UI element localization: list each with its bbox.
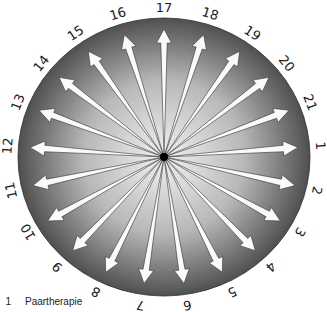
spoke-label-11: 11 bbox=[2, 181, 20, 200]
spoke-label-2: 2 bbox=[309, 185, 325, 196]
spoke-label-6: 6 bbox=[182, 297, 192, 312]
legend-item-number: 1 bbox=[5, 296, 11, 308]
spoke-label-16: 16 bbox=[108, 4, 128, 23]
spoke-label-7: 7 bbox=[135, 297, 145, 312]
spoke-label-12: 12 bbox=[0, 137, 16, 155]
spoke-label-5: 5 bbox=[225, 284, 239, 301]
spoke-label-1: 1 bbox=[313, 141, 327, 150]
legend: 1 Paartherapie bbox=[5, 296, 82, 308]
spoke-label-4: 4 bbox=[263, 259, 279, 276]
spoke-label-3: 3 bbox=[291, 225, 308, 240]
spoke-label-21: 21 bbox=[300, 92, 320, 113]
spoke-label-18: 18 bbox=[200, 4, 220, 23]
arrow-wheel-diagram: 171819202112345678910111213141516 bbox=[0, 0, 327, 312]
spoke-label-10: 10 bbox=[17, 221, 38, 243]
spoke-label-9: 9 bbox=[49, 259, 65, 276]
legend-item-label: Paartherapie bbox=[25, 296, 82, 308]
center-hub bbox=[160, 153, 168, 161]
spoke-label-17: 17 bbox=[156, 0, 173, 15]
spoke-label-13: 13 bbox=[8, 92, 28, 113]
spoke-label-8: 8 bbox=[89, 284, 103, 301]
